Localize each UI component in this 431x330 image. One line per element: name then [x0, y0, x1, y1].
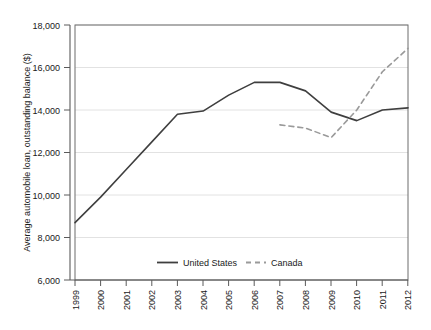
y-axis-title: Average automobile loan, outstanding bal…	[22, 53, 32, 251]
x-tick-label: 2005	[224, 290, 234, 310]
x-axis-tick-labels: 1999 2000 2001 2002 2003 2004 2005 2006 …	[71, 290, 414, 310]
x-tick-label: 2000	[96, 290, 106, 310]
x-tick-label: 2010	[352, 290, 362, 310]
y-tick-label: 18,000	[32, 21, 60, 31]
chart-figure: 18,000 16,000 14,000 12,000 10,000 8,000…	[0, 0, 431, 330]
y-tick-label: 14,000	[32, 106, 60, 116]
x-tick-label: 2007	[275, 290, 285, 310]
x-tick-label: 2002	[147, 290, 157, 310]
y-tick-label: 6,000	[37, 276, 60, 286]
y-tick-label: 8,000	[37, 233, 60, 243]
x-tick-label: 2012	[403, 290, 413, 310]
y-axis-ticks	[64, 25, 70, 280]
x-tick-label: 2001	[122, 290, 132, 310]
x-tick-label: 2004	[199, 290, 209, 310]
line-chart: 18,000 16,000 14,000 12,000 10,000 8,000…	[0, 0, 431, 330]
gridlines	[75, 25, 408, 238]
x-tick-label: 1999	[71, 290, 81, 310]
legend: United States Canada	[157, 258, 303, 268]
y-axis-tick-labels: 18,000 16,000 14,000 12,000 10,000 8,000…	[32, 21, 60, 286]
x-tick-label: 2003	[173, 290, 183, 310]
legend-label-canada: Canada	[271, 258, 303, 268]
legend-label-united-states: United States	[183, 258, 238, 268]
y-tick-label: 16,000	[32, 63, 60, 73]
x-tick-label: 2011	[378, 290, 388, 309]
x-tick-label: 2008	[301, 290, 311, 310]
data-series-group	[75, 48, 408, 222]
series-line-canada	[280, 48, 408, 137]
y-tick-label: 12,000	[32, 148, 60, 158]
x-tick-label: 2006	[250, 290, 260, 310]
y-tick-label: 10,000	[32, 191, 60, 201]
x-axis-ticks	[75, 280, 408, 286]
x-tick-label: 2009	[327, 290, 337, 310]
